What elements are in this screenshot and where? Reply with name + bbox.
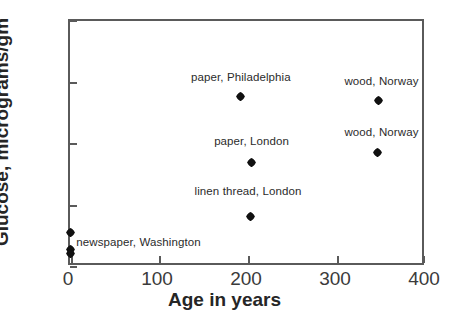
x-tick-label-300: 300 (319, 268, 351, 290)
x-tick-label-400: 400 (408, 268, 440, 290)
data-point-p4 (236, 91, 246, 101)
annotation-2: paper, London (214, 135, 289, 147)
data-point-p6 (246, 212, 256, 222)
annotation-1: wood, Norway (344, 75, 418, 87)
annotation-4: linen thread, London (195, 185, 302, 197)
x-tick-200 (248, 256, 250, 263)
y-axis-title: Glucose, micrograms/gm (0, 12, 13, 252)
y-tick-150 (70, 82, 77, 84)
x-axis-title: Age in years (0, 289, 449, 311)
y-tick-100 (70, 143, 77, 145)
data-point-p1 (65, 228, 75, 238)
x-tick-label-100: 100 (141, 268, 173, 290)
scatter-chart-figure: Glucose, micrograms/gm Age in years pape… (0, 0, 449, 321)
x-tick-label-0: 0 (63, 268, 74, 290)
y-tick-200 (70, 20, 77, 22)
annotation-5: newspaper, Washington (76, 236, 200, 248)
x-tick-300 (337, 256, 339, 263)
x-tick-400 (423, 256, 425, 263)
y-tick-50 (70, 205, 77, 207)
annotation-3: wood, Norway (344, 126, 418, 138)
data-point-p7 (374, 96, 384, 106)
x-tick-100 (159, 256, 161, 263)
x-tick-label-200: 200 (230, 268, 262, 290)
data-point-p8 (372, 148, 382, 158)
data-point-p5 (247, 157, 257, 167)
plot-area: paper, Philadelphiawood, Norwaypaper, Lo… (68, 19, 424, 265)
annotation-0: paper, Philadelphia (191, 71, 291, 83)
